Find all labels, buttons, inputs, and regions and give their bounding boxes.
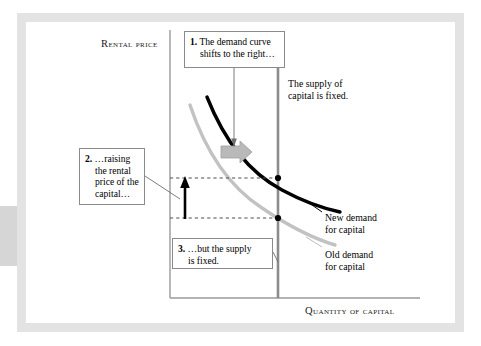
new-demand-label-line1: New demand — [325, 212, 377, 223]
figure-page: Rental price Quantity of capital 1. The … — [0, 0, 481, 346]
new-demand-label: New demand for capital — [325, 212, 377, 236]
supply-curve-label: The supply of capital is fixed. — [288, 78, 348, 102]
callout-2-line3: price of the — [85, 176, 139, 188]
callout-2-number: 2. — [85, 153, 92, 164]
y-axis-label: Rental price — [101, 38, 158, 49]
x-axis-label: Quantity of capital — [305, 305, 394, 316]
callout-1-line2: shifts to the right… — [190, 48, 279, 60]
callout-2-line1: …raising — [95, 153, 131, 164]
old-demand-label-line2: for capital — [325, 261, 365, 272]
new-demand-label-line2: for capital — [325, 224, 365, 235]
callout-3-number: 3. — [178, 243, 185, 254]
callout-2-line2: the rental — [85, 165, 139, 177]
supply-label-line1: The supply of — [288, 78, 342, 89]
callout-1-number: 1. — [190, 36, 197, 47]
old-demand-label: Old demand for capital — [325, 249, 373, 273]
callout-3-line2: is fixed. — [178, 255, 267, 267]
callout-1-line1: The demand curve — [199, 36, 270, 47]
callout-supply-fixed: 3. …but the supply is fixed. — [172, 238, 273, 269]
callout-demand-shift: 1. The demand curve shifts to the right… — [184, 31, 285, 68]
callout-2-line4: capital… — [85, 188, 139, 200]
callout-3-line1: …but the supply — [188, 243, 252, 254]
supply-label-line2: capital is fixed. — [288, 90, 348, 101]
old-demand-label-line1: Old demand — [325, 249, 373, 260]
callout-raising-price: 2. …raising the rental price of the capi… — [79, 148, 145, 205]
